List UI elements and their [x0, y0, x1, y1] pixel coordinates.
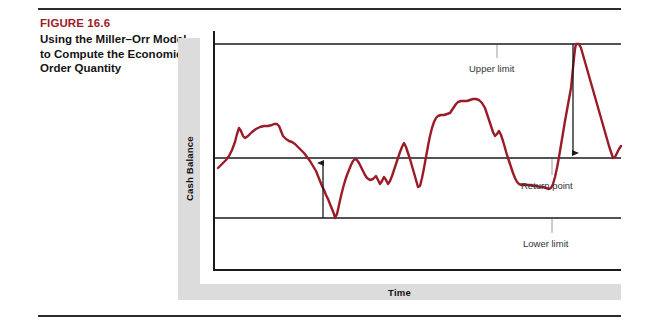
return-point-label: Return point — [521, 180, 573, 191]
figure-page: FIGURE 16.6 Using the Miller–Orr Model t… — [0, 0, 659, 332]
lower-limit-label: Lower limit — [523, 238, 569, 249]
cash-balance-curve — [218, 44, 621, 218]
cash-balance-chart: Upper limit Return point Lower limit — [0, 0, 659, 332]
bottom-rule — [38, 315, 621, 317]
upper-limit-label: Upper limit — [469, 63, 515, 74]
